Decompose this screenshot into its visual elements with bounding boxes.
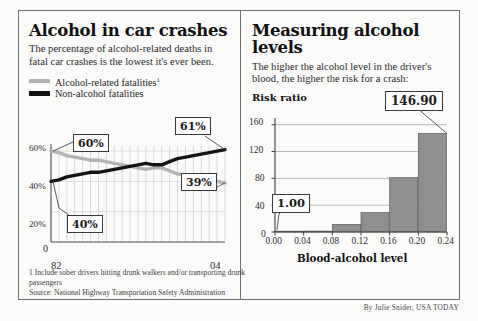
left-headline: Alcohol in car crashes (29, 22, 230, 39)
footnote-1: 1 Include sober drivers hitting drunk wa… (29, 268, 259, 288)
callout-1-00: 1.00 (272, 194, 310, 213)
legend-swatch-icon-non-alcohol (29, 91, 50, 96)
xtick-0.16: 0.16 (380, 236, 396, 246)
xtick-0.20: 0.20 (409, 236, 425, 246)
legend-label-non-alcohol: Non-alcohol fatalities (55, 88, 144, 99)
xtick-0.12: 0.12 (352, 236, 368, 246)
xtick-0.24: 0.24 (438, 236, 454, 246)
bar-0.08-0.12 (332, 225, 360, 232)
xtick-0.08: 0.08 (323, 236, 339, 246)
right-headline: Measuring alcohol levels (252, 22, 451, 57)
callout-39-percent: 39% (181, 173, 217, 191)
source-line: Source: National Highway Transportation … (29, 288, 259, 298)
bar-chart: 160 120 80 40 0 0.000.040.080.120.160.20… (249, 110, 454, 260)
xaxis-title-blood-alcohol: Blood-alcohol level (297, 252, 407, 264)
legend-footnote-marker: 1 (157, 76, 160, 83)
bar-0.12-0.16 (361, 213, 389, 232)
footnote-block: 1 Include sober drivers hitting drunk wa… (29, 268, 259, 298)
legend-item-non-alcohol: Non-alcohol fatalities (29, 88, 230, 99)
xtick-0.00: 0.00 (266, 236, 282, 246)
legend-label-alcohol: Alcohol-related fatalities1 (55, 74, 160, 88)
bar-chart-bars (275, 134, 446, 233)
callout-60-percent: 60% (73, 134, 109, 152)
left-deck: The percentage of alcohol-related deaths… (29, 43, 230, 68)
callout-146-90: 146.90 (385, 91, 443, 111)
left-panel: Alcohol in car crashes The percentage of… (18, 10, 240, 300)
bar-0.20-0.24 (418, 134, 446, 233)
legend-item-alcohol-related: Alcohol-related fatalities1 (29, 76, 230, 87)
left-legend: Alcohol-related fatalities1 Non-alcohol … (29, 76, 230, 99)
xtick-0.04: 0.04 (294, 236, 310, 246)
infographic-root: Alcohol in car crashes The percentage of… (0, 0, 478, 321)
line-chart-svg (29, 130, 229, 260)
callout-61-percent: 61% (175, 117, 211, 135)
line-chart: 60% 40% 20% 0 82 04 60% 40% 61% 39% (29, 130, 229, 260)
right-deck: The higher the alcohol level in the driv… (252, 61, 451, 86)
right-rule (459, 10, 460, 300)
credit-line: By Julie Snider, USA TODAY (364, 303, 459, 312)
callout-40-percent: 40% (67, 215, 103, 233)
legend-swatch-icon-alcohol (29, 79, 50, 83)
right-panel: Measuring alcohol levels The higher the … (241, 10, 459, 300)
bar-0.16-0.20 (390, 178, 418, 232)
